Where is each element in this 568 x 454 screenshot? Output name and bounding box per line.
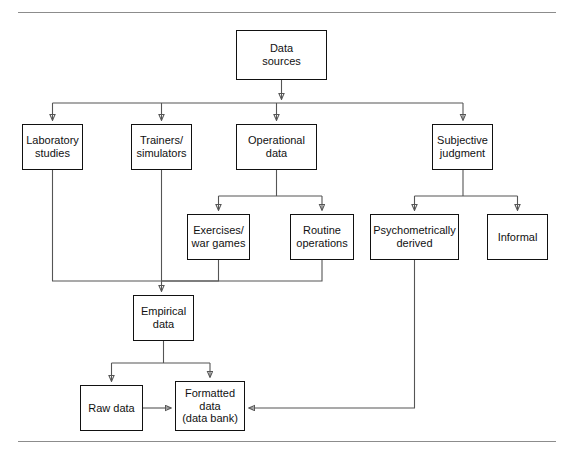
node-routine-operations[interactable]: Routine operations (290, 214, 354, 260)
node-informal[interactable]: Informal (487, 214, 548, 260)
node-routine-operations-line2: operations (293, 237, 351, 250)
node-informal-line1: Informal (490, 231, 545, 244)
edge-psychometrically-to-formatted (249, 260, 415, 408)
node-empirical-data[interactable]: Empirical data (133, 295, 194, 341)
node-raw-data-line1: Raw data (83, 402, 140, 415)
node-trainers-simulators-line1: Trainers/ (134, 134, 189, 147)
node-exercises-war-games-line1: Exercises/ (190, 224, 247, 237)
node-data-sources-line1: Data (239, 42, 324, 55)
node-operational-data[interactable]: Operational data (236, 124, 317, 170)
node-raw-data[interactable]: Raw data (80, 385, 143, 431)
node-formatted-data[interactable]: Formatted data (data bank) (175, 381, 245, 431)
node-routine-operations-line1: Routine (293, 224, 351, 237)
node-empirical-data-line1: Empirical (136, 305, 191, 318)
node-subjective-judgment-line2: judgment (435, 147, 490, 160)
node-laboratory-studies-line2: studies (25, 147, 80, 160)
node-operational-data-line2: data (239, 147, 314, 160)
node-trainers-simulators[interactable]: Trainers/ simulators (131, 124, 192, 170)
node-exercises-war-games[interactable]: Exercises/ war games (187, 214, 250, 260)
node-data-sources[interactable]: Data sources (236, 30, 327, 80)
node-empirical-data-line2: data (136, 318, 191, 331)
node-formatted-data-line3: (data bank) (178, 412, 242, 425)
node-psychometrically-derived-line2: derived (373, 237, 456, 250)
node-subjective-judgment[interactable]: Subjective judgment (432, 124, 493, 170)
node-trainers-simulators-line2: simulators (134, 147, 189, 160)
figure-canvas: Data sources Laboratory studies Trainers… (0, 0, 568, 454)
node-exercises-war-games-line2: war games (190, 237, 247, 250)
node-psychometrically-derived-line1: Psychometrically (373, 224, 456, 237)
node-formatted-data-line2: data (178, 400, 242, 413)
node-operational-data-line1: Operational (239, 134, 314, 147)
node-data-sources-line2: sources (239, 55, 324, 68)
edge-exercises-to-empirical (162, 260, 219, 281)
edge-laboratory-to-empirical (53, 170, 162, 281)
node-laboratory-studies[interactable]: Laboratory studies (22, 124, 83, 170)
edge-routine-to-empirical (162, 260, 323, 281)
node-laboratory-studies-line1: Laboratory (25, 134, 80, 147)
node-subjective-judgment-line1: Subjective (435, 134, 490, 147)
node-psychometrically-derived[interactable]: Psychometrically derived (370, 214, 459, 260)
node-formatted-data-line1: Formatted (178, 387, 242, 400)
